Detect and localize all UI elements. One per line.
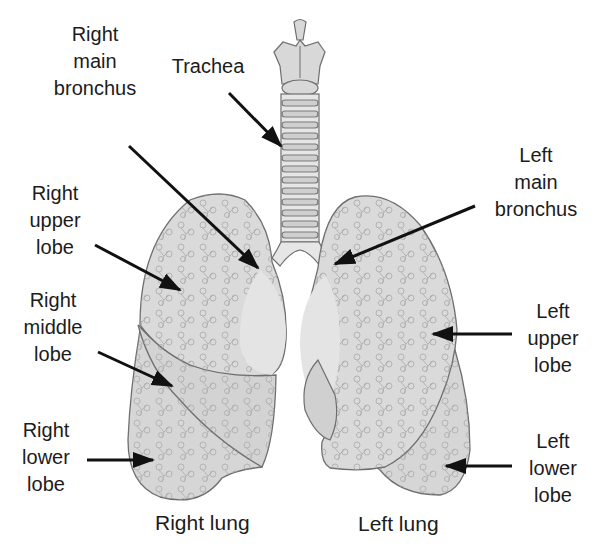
label-line: upper (518, 325, 588, 352)
label-right-upper-lobe: Right upper lobe (14, 180, 96, 261)
caption-left-lung: Left lung (358, 512, 439, 536)
lungs-diagram: Right main bronchus Trachea Right upper … (0, 0, 598, 549)
trachea-arrow (229, 93, 281, 146)
label-line: main (36, 48, 154, 75)
label-trachea: Trachea (160, 53, 256, 80)
left-lung (300, 196, 470, 495)
right-lung (128, 194, 286, 500)
label-line: Left (518, 428, 588, 455)
label-line: Trachea (160, 53, 256, 80)
label-right-main-bronchus: Right main bronchus (36, 21, 154, 102)
label-left-lower-lobe: Left lower lobe (518, 428, 588, 509)
label-line: lobe (518, 352, 588, 379)
label-line: Right (8, 287, 98, 314)
label-line: upper (14, 207, 96, 234)
label-line: main (480, 169, 592, 196)
label-left-upper-lobe: Left upper lobe (518, 298, 588, 379)
label-line: Right (36, 21, 154, 48)
label-line: lobe (6, 471, 86, 498)
label-line: lobe (14, 234, 96, 261)
label-line: bronchus (36, 75, 154, 102)
label-line: Left (518, 298, 588, 325)
label-line: lobe (8, 341, 98, 368)
caption-right-lung: Right lung (155, 511, 250, 535)
label-line: Left (480, 142, 592, 169)
label-left-main-bronchus: Left main bronchus (480, 142, 592, 223)
label-line: middle (8, 314, 98, 341)
trachea (272, 20, 328, 267)
label-right-middle-lobe: Right middle lobe (8, 287, 98, 368)
label-line: lower (518, 455, 588, 482)
label-line: Right (6, 417, 86, 444)
label-line: Right (14, 180, 96, 207)
label-right-lower-lobe: Right lower lobe (6, 417, 86, 498)
label-line: lobe (518, 482, 588, 509)
label-line: bronchus (480, 196, 592, 223)
label-line: lower (6, 444, 86, 471)
